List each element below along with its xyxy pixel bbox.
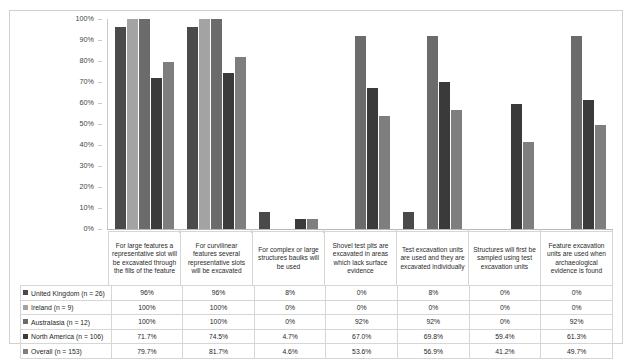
table-cell-value: 61.3% [541,329,613,344]
table-cell-value: 56.9% [398,344,470,359]
table-cell-value: 100% [183,300,255,315]
bar [367,88,378,229]
y-tick-mark [98,103,102,104]
legend-entry: North America (n = 106) [21,329,112,344]
category-label: Structures will first be sampled using t… [469,231,541,285]
table-cell-value: 96% [183,286,255,301]
y-tick-label: 100% [76,15,94,23]
table-row: North America (n = 106)71.7%74.5%4.7%67.… [21,329,613,344]
legend-swatch-icon [23,334,28,339]
bar-plot-area [108,19,613,229]
y-tick-label: 80% [80,57,94,65]
legend-label: North America (n = 106) [31,333,103,340]
table-cell-value: 41.2% [469,344,541,359]
category-label: Shovel test pits are excavated in areas … [325,231,397,285]
chart-page: 100%90%80%70%60%50%40%30%20%10%0% For la… [0,0,637,360]
bar [403,212,414,229]
table-row: United Kingdom (n = 26)96%96%8%0%8%0%0% [21,286,613,301]
table-cell-value: 0% [326,286,398,301]
y-tick-mark [98,145,102,146]
bar-group [541,19,613,229]
table-cell-value: 0% [469,286,541,301]
y-tick-label: 30% [80,162,94,170]
table-cell-value: 0% [326,300,398,315]
x-axis-line [107,229,613,230]
y-tick-mark [98,19,102,20]
bar [379,116,390,229]
table-cell-value: 0% [398,300,470,315]
y-tick-label: 40% [80,141,94,149]
table-cell-value: 67.0% [326,329,398,344]
bar [355,36,366,229]
y-tick-label: 20% [80,183,94,191]
legend-entry: Ireland (n = 9) [21,300,112,315]
legend-label: Australasia (n = 12) [31,319,90,326]
bar [211,19,222,229]
table-cell-value: 92% [326,315,398,330]
table-row: Overall (n = 153)79.7%81.7%4.6%53.6%56.9… [21,344,613,359]
y-tick-mark [98,208,102,209]
category-label-band: For large features a representative slot… [108,231,613,285]
category-label: Feature excavation units are used when a… [541,231,613,285]
bar [163,62,174,229]
bar [139,19,150,229]
bar [295,219,306,229]
table-cell-value: 0% [469,315,541,330]
bar-group [324,19,396,229]
bar [235,57,246,229]
bar [259,212,270,229]
table-cell-value: 0% [254,300,326,315]
data-table: United Kingdom (n = 26)96%96%8%0%8%0%0%I… [20,285,613,359]
category-label: For complex or large structures baulks w… [253,231,325,285]
table-row: Australasia (n = 12)100%100%0%92%92%0%92… [21,315,613,330]
table-cell-value: 49.7% [541,344,613,359]
table-cell-value: 0% [541,286,613,301]
bar [115,27,126,229]
bar [523,142,534,229]
table-cell-value: 53.6% [326,344,398,359]
category-label: For large features a representative slot… [108,231,181,285]
y-tick-mark [98,124,102,125]
bar [451,110,462,229]
bar [187,27,198,229]
y-tick-label: 10% [80,204,94,212]
legend-swatch-icon [23,290,28,295]
y-tick-mark [98,166,102,167]
table-cell-value: 8% [398,286,470,301]
legend-swatch-icon [23,349,28,354]
legend-label: Overall (n = 153) [31,348,82,355]
table-cell-value: 81.7% [183,344,255,359]
bar [151,78,162,229]
y-tick-label: 90% [80,36,94,44]
table-cell-value: 4.7% [254,329,326,344]
table-row: Ireland (n = 9)100%100%0%0%0%0%0% [21,300,613,315]
chart-data-table: United Kingdom (n = 26)96%96%8%0%8%0%0%I… [20,285,613,354]
y-tick-mark [98,229,102,230]
bar [127,19,138,229]
bar [595,125,606,229]
y-tick-label: 60% [80,99,94,107]
bar [199,19,210,229]
bar-group [108,19,180,229]
legend-swatch-icon [23,305,28,310]
table-cell-value: 4.6% [254,344,326,359]
bar [571,36,582,229]
y-tick-label: 50% [80,120,94,128]
legend-entry: Overall (n = 153) [21,344,112,359]
y-axis-tick-labels: 100%90%80%70%60%50%40%30%20%10%0% [10,19,102,229]
chart-frame: 100%90%80%70%60%50%40%30%20%10%0% For la… [9,10,623,344]
table-cell-value: 0% [254,315,326,330]
bar [427,36,438,229]
table-cell-value: 79.7% [111,344,183,359]
bar [583,100,594,229]
table-cell-value: 96% [111,286,183,301]
table-cell-value: 100% [111,300,183,315]
table-cell-value: 100% [111,315,183,330]
bar-group [469,19,541,229]
table-cell-value: 100% [183,315,255,330]
legend-swatch-icon [23,319,28,324]
table-cell-value: 71.7% [111,329,183,344]
table-cell-value: 8% [254,286,326,301]
table-cell-value: 74.5% [183,329,255,344]
y-tick-label: 0% [84,225,94,233]
